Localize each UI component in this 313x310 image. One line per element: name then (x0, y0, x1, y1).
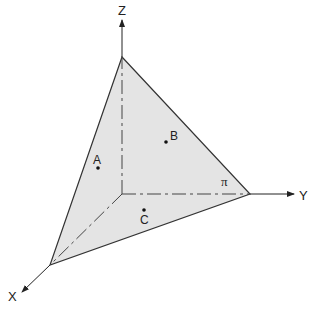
x-axis (22, 265, 50, 292)
point-b-marker (164, 140, 168, 144)
plane-label: π (221, 174, 228, 189)
coordinate-diagram: Z Y X π A B C (0, 0, 313, 310)
y-axis-label: Y (299, 188, 308, 203)
point-c-marker (142, 208, 146, 212)
x-axis-label: X (8, 289, 17, 304)
point-b-label: B (170, 129, 178, 143)
point-a-label: A (93, 153, 101, 167)
z-axis-label: Z (118, 3, 126, 18)
plane-pi (50, 57, 250, 265)
point-c-label: C (140, 213, 149, 227)
